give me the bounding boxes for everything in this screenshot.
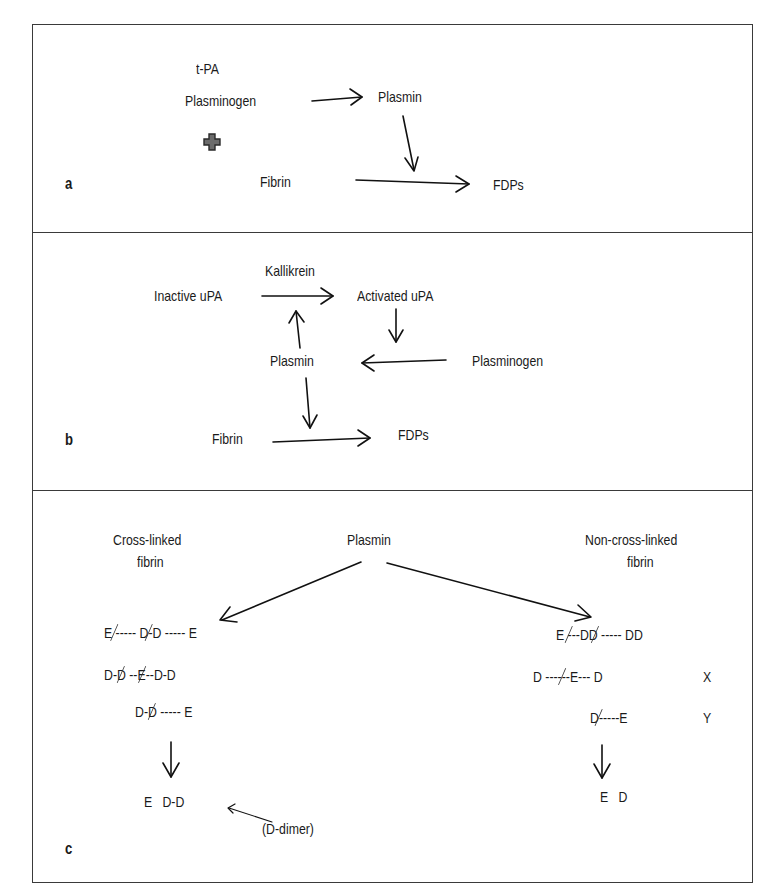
plus-icon	[203, 133, 221, 151]
node-plasminogen: Plasminogen	[472, 352, 543, 370]
node-plasminogen: Plasminogen	[185, 92, 256, 110]
node-plasmin: Plasmin	[270, 352, 314, 370]
panel-label-b: b	[65, 431, 73, 449]
panel-divider-ab	[32, 232, 753, 233]
node-fibrin: Fibrin	[260, 173, 291, 191]
panel-label-c: c	[65, 840, 72, 858]
node-plasmin: Plasmin	[347, 531, 391, 549]
node-fdps: FDPs	[493, 176, 524, 194]
node-fdps: FDPs	[398, 426, 429, 444]
cross-linked-fragment-3: D-D ----- E	[135, 703, 192, 721]
panel-label-a: a	[65, 175, 72, 193]
cross-linked-title-line2: fibrin	[137, 553, 164, 571]
node-inactive-upa: Inactive uPA	[154, 287, 222, 305]
non-cross-linked-fragment-2: D ------E--- D	[533, 668, 603, 686]
d-dimer-annotation: (D-dimer)	[262, 820, 314, 838]
fragment-label-y: Y	[703, 709, 711, 727]
node-kallikrein: Kallikrein	[265, 262, 315, 280]
node-activated-upa: Activated uPA	[357, 287, 433, 305]
non-cross-linked-fragment-1: E --- DD ----- DD	[556, 626, 643, 644]
non-cross-linked-fragment-3: D-----E	[590, 709, 628, 727]
node-fibrin: Fibrin	[212, 430, 243, 448]
panel-divider-bc	[32, 490, 753, 491]
cross-linked-fragment-1: E ----- D-D ----- E	[104, 624, 197, 642]
node-tpa: t-PA	[196, 60, 219, 78]
figure-frame	[32, 24, 753, 883]
node-plasmin: Plasmin	[378, 88, 422, 106]
non-cross-linked-title-line1: Non-cross-linked	[585, 531, 677, 549]
cross-linked-product: E D-D	[144, 793, 184, 811]
cross-linked-fragment-2: D-D -- E--D-D	[104, 666, 176, 684]
non-cross-linked-title-line2: fibrin	[627, 553, 654, 571]
non-cross-linked-product: E D	[600, 788, 627, 806]
cross-linked-title-line1: Cross-linked	[113, 531, 181, 549]
fragment-label-x: X	[703, 668, 711, 686]
